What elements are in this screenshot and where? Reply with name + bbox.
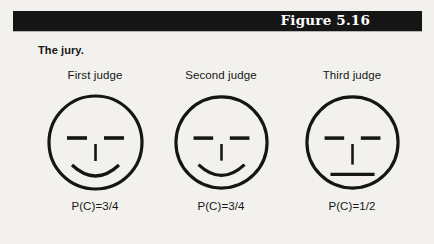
judge-face-first [31,93,159,192]
figure-title: Figure 5.16 [13,14,370,28]
judge-label-second: Second judge [157,70,285,82]
judge-probability-second: P(C)=3/4 [157,201,285,213]
figure-page: Figure 5.16 The jury. First judge P(C)=3… [0,0,434,244]
judge-probability-first: P(C)=3/4 [31,201,159,213]
figure-caption: The jury. [38,44,84,56]
judge-face-second [157,93,285,192]
judge-column-second: Second judge P(C)=3/4 [157,70,285,212]
smile-mouth [198,164,244,175]
judge-label-first: First judge [31,70,159,82]
figure-title-bar: Figure 5.16 [13,11,422,31]
judge-label-third: Third judge [288,70,416,82]
smiling-face-icon [46,93,145,192]
judge-face-third [288,93,416,192]
neutral-face-icon [304,94,401,191]
judge-probability-third: P(C)=1/2 [288,201,416,213]
judge-column-first: First judge P(C)=3/4 [31,70,159,212]
smile-mouth [72,165,119,176]
smiling-face-icon [173,94,270,191]
judge-column-third: Third judge P(C)=1/2 [288,70,416,212]
